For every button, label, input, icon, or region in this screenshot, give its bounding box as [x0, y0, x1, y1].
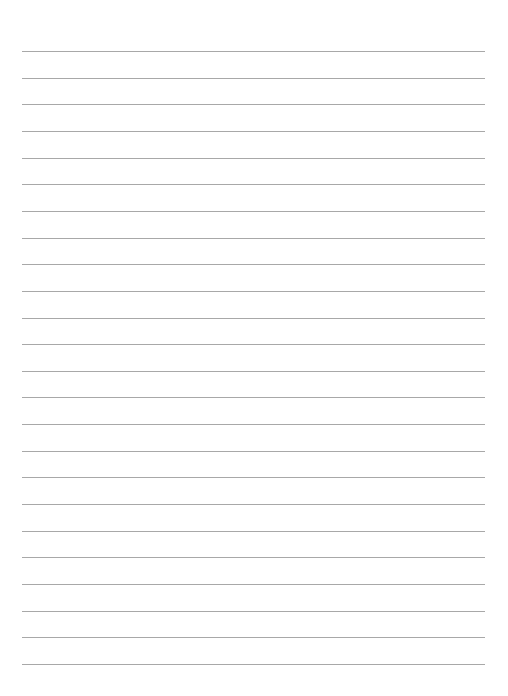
ruled-line: [22, 131, 485, 132]
ruled-line: [22, 264, 485, 265]
ruled-line: [22, 158, 485, 159]
ruled-line: [22, 397, 485, 398]
ruled-line: [22, 557, 485, 558]
ruled-line: [22, 531, 485, 532]
ruled-line: [22, 424, 485, 425]
ruled-line: [22, 344, 485, 345]
ruled-line: [22, 184, 485, 185]
lined-paper-page: [0, 0, 508, 696]
ruled-line: [22, 451, 485, 452]
ruled-line: [22, 291, 485, 292]
ruled-line: [22, 318, 485, 319]
ruled-line: [22, 238, 485, 239]
ruled-line: [22, 477, 485, 478]
ruled-line: [22, 371, 485, 372]
ruled-line: [22, 78, 485, 79]
ruled-line: [22, 104, 485, 105]
ruled-line: [22, 211, 485, 212]
ruled-line: [22, 584, 485, 585]
ruled-line: [22, 637, 485, 638]
ruled-line: [22, 51, 485, 52]
ruled-line: [22, 611, 485, 612]
ruled-line: [22, 504, 485, 505]
ruled-line: [22, 664, 485, 665]
